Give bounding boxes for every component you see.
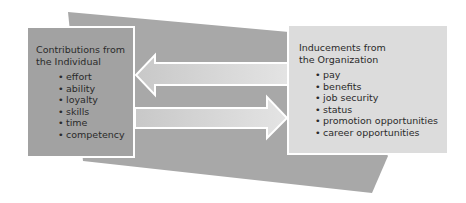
- inducements-list: •pay •benefits •job security •status •pr…: [299, 69, 447, 138]
- contributions-title: Contributions from the Individual: [36, 44, 133, 67]
- bullet-icon: •: [58, 71, 64, 83]
- bullet-icon: •: [58, 129, 64, 141]
- contributions-box: Contributions from the Individual •effor…: [26, 26, 135, 158]
- bullet-icon: •: [58, 106, 64, 118]
- list-item: •career opportunities: [315, 127, 447, 139]
- bullet-icon: •: [315, 104, 321, 116]
- bullet-icon: •: [58, 117, 64, 129]
- bullet-icon: •: [315, 115, 321, 127]
- list-item: •promotion opportunities: [315, 115, 447, 127]
- list-item: •ability: [58, 83, 133, 95]
- list-item: •skills: [58, 106, 133, 118]
- contributions-list: •effort •ability •loyalty •skills •time …: [36, 71, 133, 140]
- bullet-icon: •: [315, 81, 321, 93]
- list-item: •pay: [315, 69, 447, 81]
- list-item: •benefits: [315, 81, 447, 93]
- list-item: •loyalty: [58, 94, 133, 106]
- bullet-icon: •: [315, 69, 321, 81]
- list-item: •competency: [58, 129, 133, 141]
- bullet-icon: •: [58, 83, 64, 95]
- bullet-icon: •: [58, 94, 64, 106]
- inducements-title: Inducements from the Organization: [299, 42, 447, 65]
- inducements-box: Inducements from the Organization •pay •…: [287, 24, 449, 155]
- list-item: •job security: [315, 92, 447, 104]
- list-item: •effort: [58, 71, 133, 83]
- bullet-icon: •: [315, 127, 321, 139]
- bullet-icon: •: [315, 92, 321, 104]
- list-item: •time: [58, 117, 133, 129]
- list-item: •status: [315, 104, 447, 116]
